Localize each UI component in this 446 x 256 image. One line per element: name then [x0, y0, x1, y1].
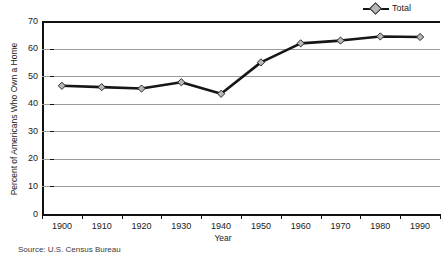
data-point-marker [178, 79, 185, 86]
series-layer [0, 0, 446, 256]
data-point-marker [337, 37, 344, 44]
data-point-marker [58, 82, 65, 89]
data-point-marker [417, 33, 424, 40]
data-point-marker [377, 33, 384, 40]
source-note: Source: U.S. Census Bureau [18, 245, 121, 255]
data-point-marker [98, 84, 105, 91]
chart-container: Total Percent of Americans Who Own a Hom… [0, 0, 446, 256]
data-point-marker [138, 85, 145, 92]
series-line-total [62, 36, 420, 93]
